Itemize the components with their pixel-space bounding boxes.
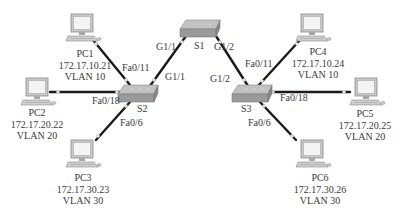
pc-label-pc1: PC1 172.17.10.21 VLAN 10 xyxy=(59,48,112,83)
port-label-s2-g1-1: G1/1 xyxy=(165,71,185,82)
pc-name: PC4 xyxy=(292,46,345,58)
pc-ip: 172.17.10.21 xyxy=(59,60,112,72)
pc-name: PC6 xyxy=(294,172,347,184)
switch-icon-s2[interactable] xyxy=(118,85,158,102)
pc-vlan: VLAN 30 xyxy=(294,195,347,207)
pc-name: PC1 xyxy=(59,48,112,60)
pc-ip: 172.17.20.25 xyxy=(339,120,392,132)
switch-icon-s3[interactable] xyxy=(232,85,272,102)
pc-name: PC2 xyxy=(11,107,64,119)
port-label-s3-g1-2: G1/2 xyxy=(210,73,230,84)
pc-label-pc4: PC4 172.17.10.24 VLAN 10 xyxy=(292,46,345,81)
pc-vlan: VLAN 20 xyxy=(11,130,64,142)
switch-icon-s1[interactable] xyxy=(180,20,220,37)
pc-icon-pc4[interactable] xyxy=(296,14,331,41)
pc-name: PC5 xyxy=(339,108,392,120)
switch-label-s3: S3 xyxy=(241,103,252,114)
pc-icon-pc3[interactable] xyxy=(66,140,101,167)
pc-ip: 172.17.30.26 xyxy=(294,184,347,196)
pc-icon-pc5[interactable] xyxy=(350,78,385,105)
pc-ip: 172.17.20.22 xyxy=(11,119,64,131)
switch-label-s1: S1 xyxy=(194,40,205,51)
pc-label-pc3: PC3 172.17.30.23 VLAN 30 xyxy=(57,172,110,207)
pc-label-pc2: PC2 172.17.20.22 VLAN 20 xyxy=(11,107,64,142)
port-label-s2-fa0-6: Fa0/6 xyxy=(120,117,143,128)
pc-name: PC3 xyxy=(57,172,110,184)
port-label-s3-fa0-18: Fa0/18 xyxy=(280,92,308,103)
pc-ip: 172.17.10.24 xyxy=(292,58,345,70)
port-label-s1-g1-2: G1/2 xyxy=(214,41,234,52)
switch-label-s2: S2 xyxy=(137,103,148,114)
port-label-s3-fa0-11: Fa0/11 xyxy=(245,58,272,69)
pc-label-pc6: PC6 172.17.30.26 VLAN 30 xyxy=(294,172,347,207)
port-label-s2-fa0-11: Fa0/11 xyxy=(122,62,149,73)
port-label-s1-g1-1: G1/1 xyxy=(156,41,176,52)
pc-vlan: VLAN 30 xyxy=(57,195,110,207)
pc-vlan: VLAN 10 xyxy=(292,69,345,81)
pc-vlan: VLAN 20 xyxy=(339,131,392,143)
port-label-s2-fa0-18: Fa0/18 xyxy=(92,95,120,106)
pc-ip: 172.17.30.23 xyxy=(57,184,110,196)
port-label-s3-fa0-6: Fa0/6 xyxy=(248,117,271,128)
pc-icon-pc1[interactable] xyxy=(66,14,101,41)
pc-vlan: VLAN 10 xyxy=(59,71,112,83)
pc-label-pc5: PC5 172.17.20.25 VLAN 20 xyxy=(339,108,392,143)
pc-icon-pc6[interactable] xyxy=(296,140,331,167)
